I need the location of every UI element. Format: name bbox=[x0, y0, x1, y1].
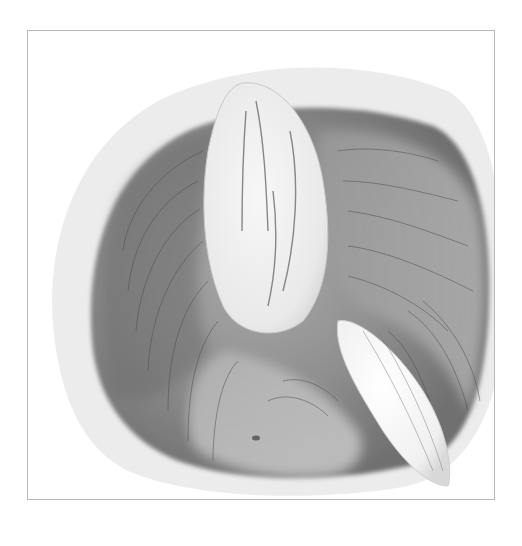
glaze-speck bbox=[252, 436, 260, 441]
photo-frame bbox=[27, 30, 495, 500]
bowl-photograph bbox=[28, 31, 494, 499]
